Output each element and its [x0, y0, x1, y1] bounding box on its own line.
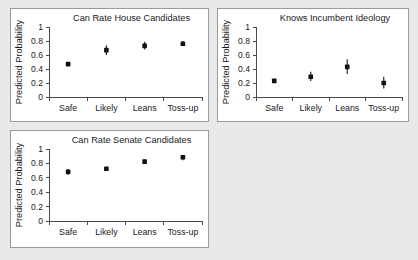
y-tick-label: 0.4	[238, 64, 250, 74]
x-category-label: Likely	[95, 103, 118, 113]
panel-can-rate-house-candidates: Can Rate House CandidatesPredicted Proba…	[10, 8, 209, 122]
y-tick-label: 0.8	[238, 36, 250, 46]
panel-can-rate-senate-candidates: Can Rate Senate CandidatesPredicted Prob…	[10, 130, 209, 248]
y-tick-label: 0.6	[31, 50, 43, 60]
data-point-marker	[181, 42, 186, 47]
y-axis-label: Predicted Probability	[221, 19, 231, 104]
data-point-marker	[104, 167, 109, 172]
data-point-marker	[142, 44, 147, 49]
x-category-label: Leans	[335, 103, 360, 113]
figure-canvas: Can Rate House CandidatesPredicted Proba…	[0, 0, 418, 260]
y-tick-label: 0	[245, 92, 250, 102]
y-tick-label: 1	[38, 144, 43, 154]
panel-title: Can Rate House Candidates	[73, 13, 190, 23]
plot-ideology: Knows Incumbent IdeologyPredicted Probab…	[218, 9, 408, 121]
y-axis-label: Predicted Probability	[14, 142, 24, 227]
data-point-marker	[272, 79, 277, 84]
x-category-label: Safe	[59, 227, 77, 237]
x-category-label: Leans	[133, 103, 158, 113]
y-tick-label: 0	[38, 216, 43, 226]
y-tick-label: 1	[38, 22, 43, 32]
data-point-marker	[381, 81, 386, 86]
panel-knows-incumbent-ideology: Knows Incumbent IdeologyPredicted Probab…	[217, 8, 409, 122]
data-point-marker	[104, 48, 109, 53]
x-category-label: Leans	[133, 227, 158, 237]
y-tick-label: 0.2	[31, 78, 43, 88]
panel-title: Knows Incumbent Ideology	[280, 13, 391, 23]
x-category-label: Toss-up	[167, 227, 198, 237]
x-category-label: Likely	[300, 103, 323, 113]
plot-senate: Can Rate Senate CandidatesPredicted Prob…	[11, 131, 208, 247]
y-tick-label: 0.8	[31, 36, 43, 46]
y-tick-label: 1	[245, 22, 250, 32]
y-tick-label: 0.2	[31, 202, 43, 212]
y-axis-label: Predicted Probability	[14, 19, 24, 104]
y-tick-label: 0.8	[31, 158, 43, 168]
data-point-marker	[308, 74, 313, 79]
data-point-marker	[345, 65, 350, 70]
data-point-marker	[142, 159, 147, 164]
data-point-marker	[66, 62, 71, 67]
x-category-label: Likely	[95, 227, 118, 237]
plot-house: Can Rate House CandidatesPredicted Proba…	[11, 9, 208, 121]
y-tick-label: 0.6	[31, 173, 43, 183]
y-tick-label: 0.6	[238, 50, 250, 60]
data-point-marker	[66, 169, 71, 174]
x-category-label: Toss-up	[368, 103, 399, 113]
data-point-marker	[181, 155, 186, 160]
x-category-label: Safe	[59, 103, 77, 113]
panel-title: Can Rate Senate Candidates	[72, 135, 192, 145]
x-category-label: Safe	[265, 103, 283, 113]
y-tick-label: 0.2	[238, 78, 250, 88]
y-tick-label: 0	[38, 92, 43, 102]
y-tick-label: 0.4	[31, 187, 43, 197]
x-category-label: Toss-up	[167, 103, 198, 113]
y-tick-label: 0.4	[31, 64, 43, 74]
